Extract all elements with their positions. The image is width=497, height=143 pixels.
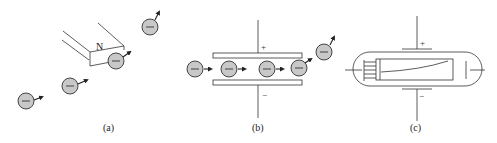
panel-a: N (a): [18, 12, 159, 134]
positive-plate: [213, 53, 302, 58]
panel-b: + − (b): [187, 20, 334, 134]
cathode-ray-tube: [353, 52, 482, 86]
electron: [187, 61, 211, 77]
plus-sign: +: [420, 38, 425, 48]
electron: [62, 78, 87, 94]
panel-label-a: (a): [103, 122, 114, 134]
negative-plate: [213, 80, 302, 85]
panel-label-c: (c): [410, 122, 421, 134]
electron: [142, 12, 159, 35]
electron: [108, 52, 130, 69]
panel-c: + − (c): [345, 16, 485, 134]
panel-label-b: (b): [252, 122, 264, 134]
plus-sign: +: [261, 42, 266, 52]
electron: [259, 61, 283, 77]
electron: [221, 61, 245, 77]
minus-sign: −: [419, 91, 424, 101]
cathode: [364, 60, 376, 81]
figure-canvas: N (a) + −: [0, 0, 497, 143]
electron: [291, 59, 311, 76]
electron: [18, 93, 42, 109]
screen: [376, 59, 453, 80]
electron: [316, 37, 334, 60]
electron-beam: [381, 61, 448, 72]
minus-sign: −: [262, 90, 267, 100]
magnet-label-n: N: [96, 41, 103, 52]
